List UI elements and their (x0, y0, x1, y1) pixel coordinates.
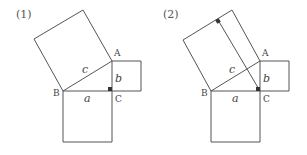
side-a-label: a (84, 92, 91, 105)
figure-1-label: (1) (16, 8, 32, 21)
right-angle-mark (108, 87, 112, 91)
side-b-label: b (263, 72, 270, 85)
side-c-label: c (229, 63, 235, 76)
figure-2-label: (2) (163, 8, 179, 21)
figure-1: (1) A B C a b c (16, 8, 141, 142)
square-on-c (34, 10, 112, 91)
side-a-label: a (232, 92, 239, 105)
point-c-label: C (115, 94, 122, 104)
point-b-label: B (201, 88, 208, 98)
point-c-label: C (263, 94, 270, 104)
side-b-label: b (115, 72, 122, 85)
figure-2: (2) A B C a b c (163, 8, 289, 142)
point-a-label: A (113, 48, 121, 58)
side-c-label: c (82, 63, 88, 76)
right-angle-mark (256, 87, 260, 91)
point-b-label: B (53, 88, 60, 98)
square-on-c (183, 10, 260, 91)
point-a-label: A (261, 48, 269, 58)
altitude-line (218, 20, 260, 91)
pythagorean-diagrams: (1) A B C a b c (2) A B C a b c (0, 0, 307, 155)
